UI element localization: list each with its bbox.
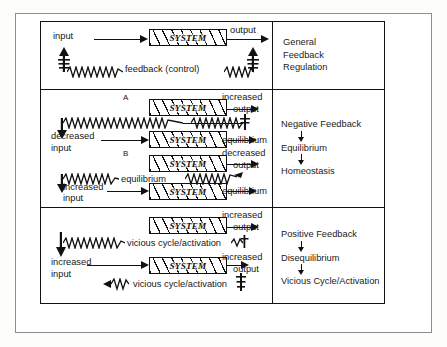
positive-bottom-feedback-terminal-icon [234,272,248,294]
positive-bottom-system-label: SYSTEM [170,261,207,271]
negative-side-arrow-2-icon [297,154,306,165]
positive-side-arrow-2-icon [297,264,306,275]
negative-a2-system-box: SYSTEM [149,131,227,148]
general-feedback-squiggle-left [67,66,123,78]
general-output-label: output [230,25,256,36]
positive-bottom-output-label-line1: increased [222,252,274,264]
positive-top-feedback-terminal-icon [231,234,249,252]
positive-side-label-2: Disequilibrium [281,252,380,265]
negative-side-label-3: Homeostasis [281,165,361,178]
general-side-label-2: Feedback [283,49,327,62]
positive-top-feedback-squiggle [63,237,125,249]
negative-a-feedback-squiggle-left [63,117,183,129]
positive-top-feedback-label: vicious cycle/activation [127,238,221,249]
negative-a-system-box: SYSTEM [149,99,227,116]
negative-a-output-label-line1: increased [222,92,274,104]
negative-a-feedback-terminal-icon [238,112,252,132]
panel-negative-rows: A SYSTEM increased output [41,90,273,207]
positive-side-label-3: Vicious Cycle/Activation [281,275,380,288]
panel-positive-side-labels: Positive Feedback Disequilibrium Vicious… [273,208,384,303]
panel-general-rows: input SYSTEM output feedba [41,22,273,89]
positive-side-arrow-1-icon [297,241,306,252]
general-input-label: input [53,31,73,42]
panel-positive-feedback: SYSTEM increased output vicious cycle/ac… [40,207,385,304]
negative-side-label-1: Negative Feedback [281,118,361,131]
negative-a-input-label-line1: decreased [51,131,103,143]
general-feedback-label: feedback (control) [125,64,199,75]
general-side-label-1: General [283,36,327,49]
figure-root: input SYSTEM output feedba [0,0,447,347]
positive-bottom-feedback-label: vicious cycle/activation [133,279,227,290]
negative-b2-output-label: equilibrium [222,186,267,197]
general-system-box: SYSTEM [149,29,227,46]
negative-side-arrow-1-icon [297,131,306,142]
positive-top-system-label: SYSTEM [170,221,207,231]
positive-top-system-box: SYSTEM [149,217,227,234]
diagram-body: input SYSTEM output feedba [40,21,385,300]
positive-bottom-feedback-squiggle [111,278,129,291]
panel-general-feedback: input SYSTEM output feedba [40,21,385,89]
negative-b-system-label: SYSTEM [170,159,207,169]
positive-bottom-input-label-line2: input [51,269,103,281]
negative-b-feedback-terminal-icon [232,170,244,182]
negative-b-output-label-line1: decreased [222,148,274,160]
negative-a-input-label-line2: input [51,143,103,155]
positive-side-label-1: Positive Feedback [281,228,380,241]
panel-positive-rows: SYSTEM increased output vicious cycle/ac… [41,208,273,303]
positive-bottom-system-box: SYSTEM [149,257,227,274]
negative-side-label-2: Equilibrium [281,142,361,155]
negative-a-system-label: SYSTEM [170,103,207,113]
negative-a-feedback-squiggle-right [191,117,243,129]
positive-bottom-input-label-line1: increased [51,257,103,269]
panel-general-side-labels: General Feedback Regulation [273,22,384,89]
negative-b-input-label-line2: input [63,193,115,205]
negative-a2-output-label: equilibrium [222,135,267,146]
negative-sublabel-b: B [123,148,128,159]
negative-b-system-box: SYSTEM [149,155,227,172]
general-right-up-arrow-icon [243,46,263,74]
general-side-label-3: Regulation [283,61,327,74]
panel-negative-feedback: A SYSTEM increased output [40,89,385,207]
panel-negative-side-labels: Negative Feedback Equilibrium Homeostasi… [273,90,384,207]
negative-b2-system-label: SYSTEM [170,187,207,197]
negative-b2-system-box: SYSTEM [149,183,227,200]
general-system-label: SYSTEM [170,33,207,43]
positive-top-output-label-line1: increased [222,210,274,222]
negative-sublabel-a: A [123,92,128,103]
positive-top-feedback-down-arrow-icon [52,232,70,258]
negative-a2-system-label: SYSTEM [170,135,207,145]
